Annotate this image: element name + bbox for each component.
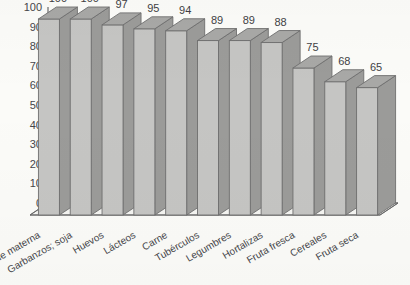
value-label: 68 [338,55,350,67]
bar-front-face [293,68,314,215]
bar-front-face [261,43,282,215]
value-label: 95 [147,2,159,14]
category-labels: Leche maternaGarbanzos; sojaHuevosLácteo… [0,229,360,275]
bar-front-face [198,41,219,215]
bar-front-face [166,31,187,215]
category-label: Lácteos [102,229,138,256]
bar-front-face [229,41,250,215]
value-label: 65 [370,61,382,73]
value-label: 89 [243,14,255,26]
bar-chart: 0102030405060708090100 10010097959489898… [0,0,410,285]
bars [38,7,395,215]
bar-side-face [378,76,396,215]
value-label: 75 [306,41,318,53]
value-label: 88 [275,16,287,28]
category-label: Huevos [71,229,106,255]
bar-10 [357,76,396,215]
bar-front-face [38,19,59,215]
bar-front-face [70,19,91,215]
value-label: 89 [211,14,223,26]
value-label: 100 [81,0,99,4]
bar-front-face [134,29,155,215]
chart-canvas: 0102030405060708090100 10010097959489898… [0,0,410,285]
value-label: 97 [115,0,127,10]
bar-front-face [102,25,123,215]
bar-front-face [325,82,346,215]
value-label: 100 [49,0,67,4]
y-tick-label: 100 [24,1,42,13]
value-label: 94 [179,4,191,16]
bar-front-face [357,88,378,215]
